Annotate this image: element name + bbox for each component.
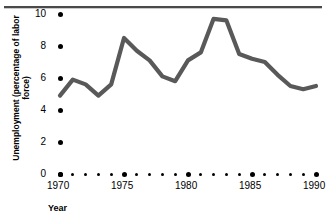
x-tick-marker-minor — [148, 173, 151, 176]
x-tick-marker-major — [122, 172, 127, 177]
x-tick-marker-major — [314, 172, 319, 177]
y-tick-label: 4 — [14, 105, 46, 115]
x-tick-marker-minor — [302, 173, 305, 176]
y-tick-marker — [58, 108, 63, 113]
x-tick-marker-minor — [97, 173, 100, 176]
y-tick-label: 2 — [14, 137, 46, 147]
chart-figure: Unemployment (percentage of labor force)… — [0, 0, 326, 224]
x-tick-marker-minor — [199, 173, 202, 176]
x-tick-label: 1975 — [111, 180, 133, 191]
y-tick-label: 0 — [14, 169, 46, 179]
x-tick-marker-minor — [135, 173, 138, 176]
x-tick-marker-major — [250, 172, 255, 177]
y-tick-marker — [58, 44, 63, 49]
y-tick-marker — [58, 140, 63, 145]
y-tick-marker — [58, 12, 63, 17]
x-tick-label: 1980 — [175, 180, 197, 191]
y-tick-label: 10 — [14, 9, 46, 19]
x-tick-marker-major — [186, 172, 191, 177]
x-tick-marker-minor — [263, 173, 266, 176]
x-tick-marker-minor — [161, 173, 164, 176]
x-tick-marker-minor — [289, 173, 292, 176]
y-tick-marker — [58, 76, 63, 81]
x-tick-marker-minor — [212, 173, 215, 176]
x-tick-marker-minor — [238, 173, 241, 176]
y-axis-title: Unemployment (percentage of labor force) — [11, 3, 31, 173]
x-tick-label: 1985 — [239, 180, 261, 191]
x-tick-marker-minor — [276, 173, 279, 176]
x-tick-marker-minor — [84, 173, 87, 176]
y-tick-label: 8 — [14, 41, 46, 51]
plot-area: 024681019701975198019851990 — [40, 8, 326, 180]
x-tick-marker-minor — [110, 173, 113, 176]
x-tick-marker-minor — [174, 173, 177, 176]
y-tick-label: 6 — [14, 73, 46, 83]
x-tick-marker-major — [58, 172, 63, 177]
x-tick-label: 1990 — [303, 180, 325, 191]
x-tick-marker-minor — [225, 173, 228, 176]
x-tick-marker-minor — [71, 173, 74, 176]
x-axis-title: Year — [48, 203, 67, 213]
x-tick-label: 1970 — [47, 180, 69, 191]
